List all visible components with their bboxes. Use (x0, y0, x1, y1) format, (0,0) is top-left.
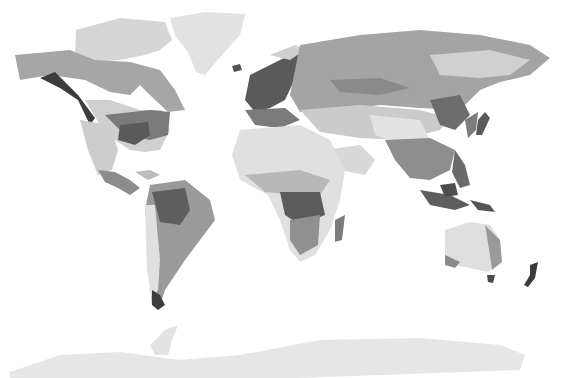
new-zealand (524, 262, 538, 287)
greenland (170, 12, 245, 75)
africa (232, 125, 345, 262)
japan (476, 112, 490, 135)
south-america (145, 180, 215, 310)
maritime-southeast-asia (420, 183, 495, 212)
antarctica (10, 325, 525, 378)
australia (445, 222, 502, 283)
north-america (15, 18, 185, 195)
world-map (0, 0, 563, 378)
